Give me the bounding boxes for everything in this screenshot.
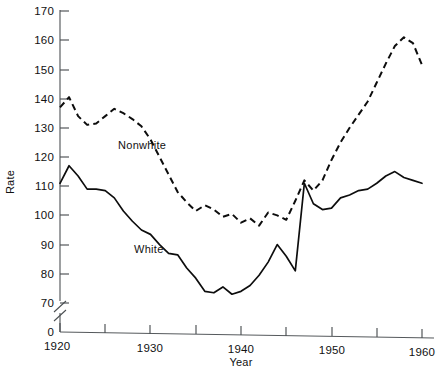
y-tick-label-120: 120 — [34, 151, 54, 163]
y-tick-label-160: 160 — [34, 34, 54, 46]
y-tick-label-110: 110 — [35, 180, 54, 192]
y-tick-label-150: 150 — [34, 64, 54, 76]
x-tick-label-1940: 1940 — [228, 343, 254, 355]
series-label-white: White — [134, 243, 164, 255]
line-chart: 170 160 150 140 130 120 110 100 90 80 70… — [0, 0, 441, 371]
series-label-nonwhite: Nonwhite — [118, 139, 166, 151]
series-line-white — [60, 166, 422, 294]
y-tick-marks — [60, 11, 69, 303]
x-axis-title: Year — [229, 356, 252, 368]
x-tick-marks — [60, 323, 422, 338]
figure-container: 170 160 150 140 130 120 110 100 90 80 70… — [0, 0, 441, 371]
y-tick-label-140: 140 — [34, 93, 54, 105]
x-tick-label-1950: 1950 — [319, 344, 345, 356]
y-tick-label-100: 100 — [34, 209, 54, 221]
x-axis-line — [60, 332, 434, 338]
y-tick-label-70: 70 — [41, 297, 54, 309]
series-group — [60, 37, 422, 294]
y-tick-label-130: 130 — [34, 122, 54, 134]
y-tick-label-170: 170 — [34, 5, 54, 17]
series-labels: Nonwhite White — [118, 139, 166, 255]
y-tick-labels: 170 160 150 140 130 120 110 100 90 80 70… — [34, 5, 54, 338]
x-axis: 1920 1930 1940 1950 1960 Year — [44, 323, 435, 368]
y-tick-label-80: 80 — [41, 268, 54, 280]
x-tick-label-1930: 1930 — [137, 342, 163, 354]
y-tick-label-zero: 0 — [47, 326, 54, 338]
x-tick-label-1920: 1920 — [44, 340, 70, 352]
x-tick-label-1960: 1960 — [409, 346, 435, 358]
y-axis: 170 160 150 140 130 120 110 100 90 80 70… — [4, 5, 69, 338]
y-tick-label-90: 90 — [41, 239, 54, 251]
y-axis-title: Rate — [4, 170, 16, 194]
